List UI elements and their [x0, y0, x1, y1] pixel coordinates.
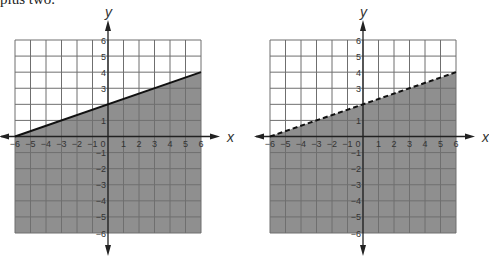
y-tick-label: 1 [356, 116, 361, 126]
x-tick-label: 1 [376, 139, 381, 149]
y-tick-label: −4 [351, 196, 361, 206]
x-axis-label: x [481, 129, 489, 145]
x-tick-label: 3 [407, 139, 412, 149]
y-tick-label: 5 [356, 52, 361, 62]
graph-b-dashed-boundary: xy−6−5−4−3−2−10123456−6−5−4−3−2−113456 [0, 0, 489, 263]
y-tick-label: 6 [356, 36, 361, 46]
y-tick-label: −5 [351, 212, 361, 222]
y-tick-label: 4 [356, 68, 361, 78]
x-tick-label: −4 [296, 139, 306, 149]
y-tick-label: −1 [351, 148, 361, 158]
x-tick-label: −5 [280, 139, 290, 149]
y-axis-down-arrow-icon [360, 245, 366, 256]
x-axis-left-arrow-icon [254, 134, 264, 140]
y-tick-label: −2 [351, 164, 361, 174]
y-tick-label: −6 [351, 229, 361, 239]
y-axis-up-arrow-icon [360, 20, 366, 31]
x-tick-label: −2 [327, 139, 337, 149]
x-tick-label: 2 [391, 139, 396, 149]
x-tick-label: 5 [438, 139, 443, 149]
x-tick-label: 4 [422, 139, 427, 149]
x-axis-right-arrow-icon [465, 134, 475, 140]
x-tick-label: −6 [265, 139, 275, 149]
y-axis-label: y [359, 4, 368, 20]
x-tick-label: −1 [342, 139, 352, 149]
x-tick-label: 0 [355, 139, 360, 149]
x-tick-label: 6 [453, 139, 458, 149]
y-tick-label: 3 [356, 84, 361, 94]
x-tick-label: −3 [311, 139, 321, 149]
y-tick-label: −3 [351, 180, 361, 190]
